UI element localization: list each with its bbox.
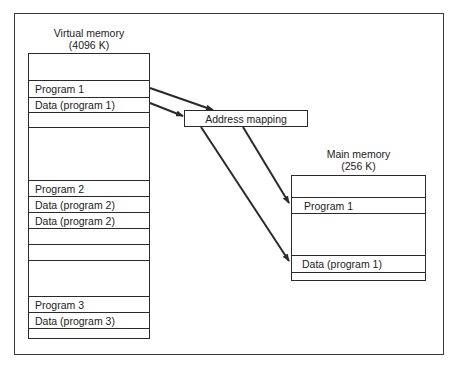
arrow-mapping-to-mm-data1 — [201, 127, 289, 261]
main-memory-title: Main memory (256 K) — [291, 148, 426, 172]
arrow-data1-to-mapping — [150, 103, 183, 116]
arrow-mapping-to-mm-program1 — [243, 127, 289, 203]
mm-row — [292, 176, 425, 197]
main-memory-size: (256 K) — [291, 160, 426, 172]
mm-row-data-program-1: Data (program 1) — [292, 255, 425, 272]
main-memory-block: Program 1 Data (program 1) — [291, 175, 426, 281]
mm-row — [292, 213, 425, 255]
mm-row-program-1: Program 1 — [292, 197, 425, 213]
main-memory-label: Main memory — [291, 148, 426, 160]
mm-row — [292, 272, 425, 281]
address-mapping-box: Address mapping — [184, 110, 308, 127]
